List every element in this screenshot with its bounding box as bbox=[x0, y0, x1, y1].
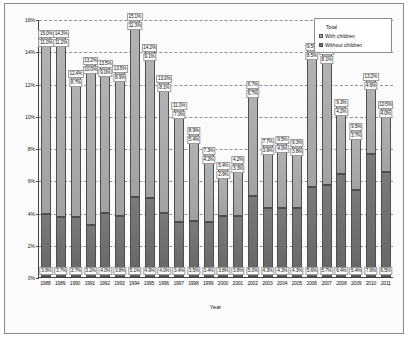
bar-segment-without-children[interactable]: 4.0% bbox=[159, 213, 169, 278]
bar-group-1991[interactable]: 13.2%10.0%3.2% bbox=[83, 20, 98, 277]
bar-segment-with-children[interactable]: 13.2%4.6% bbox=[366, 80, 376, 154]
bar-group-2010[interactable]: 13.2%4.6%7.6% bbox=[364, 20, 379, 277]
stacked-bar[interactable]: 7.3%4.2%3.4% bbox=[204, 20, 214, 277]
bar-segment-with-children[interactable]: 10.5%4.0% bbox=[381, 108, 391, 173]
bar-group-1989[interactable]: 14.3%11.2%3.7% bbox=[54, 20, 69, 277]
stacked-bar[interactable]: 13.5%9.0%4.0% bbox=[100, 20, 110, 277]
bar-label-total: 8.9% bbox=[187, 127, 200, 135]
bar-segment-with-children[interactable]: 9.5%8.5% bbox=[307, 50, 317, 187]
bar-group-1998[interactable]: 8.9%5.4%3.5% bbox=[187, 20, 202, 277]
bar-segment-with-children[interactable]: 15.1%11.3% bbox=[130, 20, 140, 197]
bar-segment-without-children[interactable]: 5.0% bbox=[248, 196, 258, 277]
bar-group-1990[interactable]: 12.4%8.7%3.7% bbox=[69, 20, 84, 277]
bar-segment-without-children[interactable]: 3.9% bbox=[41, 214, 51, 277]
bar-group-1999[interactable]: 7.3%4.2%3.4% bbox=[201, 20, 216, 277]
bar-segment-without-children[interactable]: 6.5% bbox=[381, 172, 391, 277]
stacked-bar[interactable]: 12.4%8.7%3.7% bbox=[71, 20, 81, 277]
bar-group-1988[interactable]: 15.0%11.0%3.9% bbox=[39, 20, 54, 277]
bar-group-2000[interactable]: 5.4%2.9%3.8% bbox=[216, 20, 231, 277]
stacked-bar[interactable]: 13.0%8.1%4.0% bbox=[159, 20, 169, 277]
bar-segment-without-children[interactable]: 4.9% bbox=[145, 198, 155, 277]
bar-segment-without-children[interactable]: 3.8% bbox=[218, 216, 228, 277]
bar-segment-without-children[interactable]: 3.7% bbox=[56, 217, 66, 277]
bar-group-1995[interactable]: 14.2%9.1%4.9% bbox=[142, 20, 157, 277]
bar-segment-with-children[interactable]: 13.2%10.0% bbox=[86, 64, 96, 225]
bar-group-2004[interactable]: 9.5%4.0%4.3% bbox=[275, 20, 290, 277]
stacked-bar[interactable]: 9.3%3.8%4.3% bbox=[292, 20, 302, 277]
stacked-bar[interactable]: 14.2%9.1%4.9% bbox=[145, 20, 155, 277]
stacked-bar[interactable]: 10.5%4.0%6.5% bbox=[381, 20, 391, 277]
bar-segment-without-children[interactable]: 3.7% bbox=[71, 217, 81, 277]
bar-segment-with-children[interactable]: 13.5%9.0% bbox=[100, 67, 110, 212]
bar-group-2001[interactable]: 4.2%3.3%3.8% bbox=[231, 20, 246, 277]
stacked-bar[interactable]: 8.9%5.4%3.5% bbox=[189, 20, 199, 277]
bar-group-1996[interactable]: 13.0%8.1%4.0% bbox=[157, 20, 172, 277]
bar-segment-without-children[interactable]: 5.7% bbox=[322, 185, 332, 277]
stacked-bar[interactable]: 9.5%4.0%4.3% bbox=[277, 20, 287, 277]
bar-segment-with-children[interactable]: 5.4%2.9% bbox=[218, 169, 228, 216]
bar-segment-with-children[interactable]: 4.2%3.3% bbox=[233, 163, 243, 216]
bar-segment-with-children[interactable]: 7.3%4.2% bbox=[204, 154, 214, 222]
bar-group-2003[interactable]: 7.7%3.9%4.3% bbox=[260, 20, 275, 277]
bar-group-2009[interactable]: 9.5%3.7%5.4% bbox=[349, 20, 364, 277]
bar-segment-with-children[interactable]: 7.7%3.9% bbox=[263, 145, 273, 208]
stacked-bar[interactable]: 4.2%3.3%3.8% bbox=[233, 20, 243, 277]
bar-segment-without-children[interactable]: 4.3% bbox=[277, 208, 287, 277]
bar-segment-without-children[interactable]: 3.5% bbox=[189, 221, 199, 277]
bar-segment-without-children[interactable]: 3.8% bbox=[115, 216, 125, 277]
bar-segment-with-children[interactable]: 14.3%11.2% bbox=[56, 37, 66, 218]
bar-segment-without-children[interactable]: 5.4% bbox=[351, 190, 361, 277]
stacked-bar[interactable]: 11.0%7.0%3.4% bbox=[174, 20, 184, 277]
bar-group-2006[interactable]: 9.5%8.5%5.6% bbox=[305, 20, 320, 277]
bar-group-2008[interactable]: 9.3%4.2%6.4% bbox=[334, 20, 349, 277]
bar-segment-without-children[interactable]: 5.1% bbox=[130, 197, 140, 277]
bar-label-with-children: 8.1% bbox=[158, 84, 171, 92]
bar-segment-with-children[interactable]: 13.5%8.9% bbox=[115, 72, 125, 216]
bar-segment-with-children[interactable]: 9.5%4.0% bbox=[277, 143, 287, 208]
stacked-bar[interactable]: 15.0%11.0%3.9% bbox=[41, 20, 51, 277]
stacked-bar[interactable]: 13.2%4.6%7.6% bbox=[366, 20, 376, 277]
bar-group-2002[interactable]: 6.7%6.7%5.0% bbox=[246, 20, 261, 277]
bar-segment-with-children[interactable]: 9.3%3.8% bbox=[292, 146, 302, 207]
bar-group-1997[interactable]: 11.0%7.0%3.4% bbox=[172, 20, 187, 277]
bar-group-2007[interactable]: 11.2%8.1%5.7% bbox=[319, 20, 334, 277]
stacked-bar[interactable]: 14.3%11.2%3.7% bbox=[56, 20, 66, 277]
bar-segment-with-children[interactable]: 13.0%8.1% bbox=[159, 82, 169, 213]
bar-label-without-children: 5.7% bbox=[320, 267, 333, 275]
bar-group-2005[interactable]: 9.3%3.8%4.3% bbox=[290, 20, 305, 277]
bar-segment-with-children[interactable]: 14.2%9.1% bbox=[145, 51, 155, 198]
stacked-bar[interactable]: 9.5%3.7%5.4% bbox=[351, 20, 361, 277]
stacked-bar[interactable]: 15.1%11.3%5.1% bbox=[130, 20, 140, 277]
bar-segment-without-children[interactable]: 3.8% bbox=[233, 216, 243, 277]
bar-segment-without-children[interactable]: 4.3% bbox=[292, 208, 302, 277]
bar-segment-with-children[interactable]: 15.0%11.0% bbox=[41, 37, 51, 214]
bar-group-1993[interactable]: 13.5%8.9%3.8% bbox=[113, 20, 128, 277]
bar-segment-without-children[interactable]: 3.4% bbox=[174, 222, 184, 277]
stacked-bar[interactable]: 9.3%4.2%6.4% bbox=[336, 20, 346, 277]
bar-group-1994[interactable]: 15.1%11.3%5.1% bbox=[128, 20, 143, 277]
bar-group-1992[interactable]: 13.5%9.0%4.0% bbox=[98, 20, 113, 277]
bar-segment-with-children[interactable]: 6.7%6.7% bbox=[248, 88, 258, 196]
bar-segment-with-children[interactable]: 11.2%8.1% bbox=[322, 54, 332, 185]
bar-segment-without-children[interactable]: 7.6% bbox=[366, 154, 376, 277]
stacked-bar[interactable]: 13.2%10.0%3.2% bbox=[86, 20, 96, 277]
bar-segment-with-children[interactable]: 9.3%4.2% bbox=[336, 106, 346, 174]
stacked-bar[interactable]: 13.5%8.9%3.8% bbox=[115, 20, 125, 277]
stacked-bar[interactable]: 11.2%8.1%5.7% bbox=[322, 20, 332, 277]
bar-segment-with-children[interactable]: 11.0%7.0% bbox=[174, 109, 184, 222]
x-tick-1998: 1998 bbox=[186, 279, 201, 305]
stacked-bar[interactable]: 5.4%2.9%3.8% bbox=[218, 20, 228, 277]
bar-segment-with-children[interactable]: 12.4%8.7% bbox=[71, 77, 81, 217]
bar-group-2011[interactable]: 10.5%4.0%6.5% bbox=[378, 20, 393, 277]
bar-segment-without-children[interactable]: 3.2% bbox=[86, 225, 96, 277]
bar-segment-without-children[interactable]: 4.0% bbox=[100, 213, 110, 278]
bar-segment-without-children[interactable]: 6.4% bbox=[336, 174, 346, 277]
bar-segment-without-children[interactable]: 5.6% bbox=[307, 187, 317, 277]
stacked-bar[interactable]: 6.7%6.7%5.0% bbox=[248, 20, 258, 277]
bar-segment-with-children[interactable]: 8.9%5.4% bbox=[189, 134, 199, 221]
bar-segment-with-children[interactable]: 9.5%3.7% bbox=[351, 130, 361, 190]
bar-segment-without-children[interactable]: 4.3% bbox=[263, 208, 273, 277]
stacked-bar[interactable]: 7.7%3.9%4.3% bbox=[263, 20, 273, 277]
stacked-bar[interactable]: 9.5%8.5%5.6% bbox=[307, 20, 317, 277]
bar-segment-without-children[interactable]: 3.4% bbox=[204, 222, 214, 277]
